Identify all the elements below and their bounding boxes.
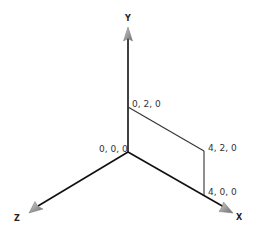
y-axis-label: Y	[124, 14, 131, 23]
diagram-canvas: Y X Z 0, 0, 0 0, 2, 0 4, 2, 0 4, 0, 0	[0, 0, 255, 234]
3d-coordinate-diagram: Y X Z 0, 0, 0 0, 2, 0 4, 2, 0 4, 0, 0	[0, 0, 255, 234]
point-label-4-2-0: 4, 2, 0	[208, 143, 237, 153]
point-label-0-2-0: 0, 2, 0	[132, 99, 161, 109]
z-axis-arrowhead-icon	[29, 202, 43, 214]
x-axis-arrowhead-icon	[219, 202, 233, 213]
z-axis-label: Z	[14, 214, 20, 223]
point-label-origin: 0, 0, 0	[99, 144, 128, 154]
x-axis	[128, 152, 233, 213]
x-axis-label: X	[236, 213, 243, 222]
point-label-4-0-0: 4, 0, 0	[208, 187, 237, 197]
y-axis	[124, 27, 133, 152]
xy-rectangle	[128, 107, 204, 195]
z-axis	[29, 152, 128, 213]
